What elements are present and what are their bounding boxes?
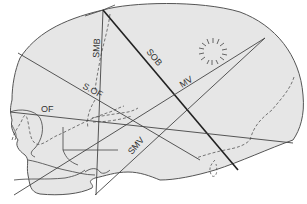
label-smb: SMB <box>91 38 102 58</box>
skull-diagram: SMB SOB MV S.OF OF SMV <box>0 0 307 204</box>
label-of: OF <box>41 104 54 114</box>
skull-outline <box>11 4 304 195</box>
